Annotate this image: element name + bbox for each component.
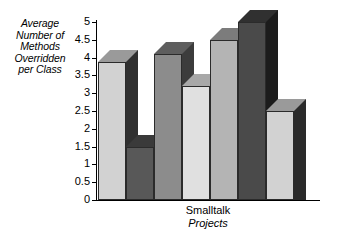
bar-5-front <box>210 40 238 200</box>
y-tick-label-5: 5 <box>64 16 90 27</box>
x-axis-line <box>96 200 320 201</box>
y-tick-label-3-5: 3.5 <box>64 69 90 80</box>
bar-1-front <box>98 62 126 200</box>
bar-7-side <box>294 99 306 200</box>
bar-3-front <box>154 54 182 200</box>
x-axis-title-line-1: Smalltalk <box>96 204 320 217</box>
y-tick-label-1: 1 <box>64 158 90 169</box>
bar-5 <box>210 40 238 200</box>
y-tick-label-0-5: 0.5 <box>64 176 90 187</box>
bar-7-front <box>266 111 294 200</box>
bar-6-front <box>238 22 266 200</box>
y-tick-label-0: 0 <box>64 194 90 205</box>
y-tick-label-4-5: 4.5 <box>64 34 90 45</box>
y-tick-label-4: 4 <box>64 52 90 63</box>
x-axis-title-line-2: Projects <box>96 217 320 230</box>
y-tick-label-2-5: 2.5 <box>64 105 90 116</box>
bar-6 <box>238 22 266 200</box>
bar-3 <box>154 54 182 200</box>
y-tick-label-1-5: 1.5 <box>64 141 90 152</box>
bar-2-front <box>126 147 154 200</box>
bar-chart: Average Number of Methods Overridden per… <box>0 0 339 238</box>
bar-4-front <box>182 86 210 200</box>
y-tick-label-2: 2 <box>64 123 90 134</box>
bar-2 <box>126 147 154 200</box>
bar-1 <box>98 62 126 200</box>
x-axis-title: Smalltalk Projects <box>96 204 320 231</box>
bar-7 <box>266 111 294 200</box>
plot-area: 5 4.5 4 3.5 3 2.5 2 1.5 1 0.5 0 <box>0 0 339 238</box>
bar-4 <box>182 86 210 200</box>
y-tick-label-3: 3 <box>64 87 90 98</box>
